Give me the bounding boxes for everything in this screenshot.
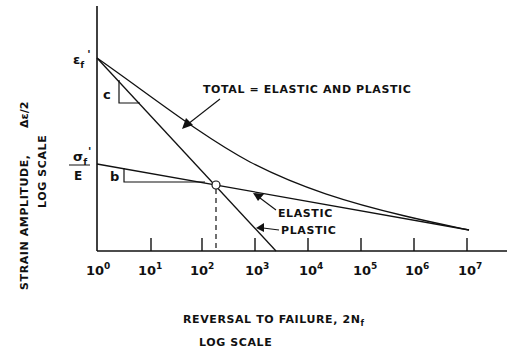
- svg-text:106: 106: [405, 261, 429, 278]
- svg-text:104: 104: [299, 261, 323, 278]
- slope-label-b: b: [110, 169, 119, 184]
- total-label: TOTAL = ELASTIC AND PLASTIC: [203, 83, 411, 96]
- svg-text:105: 105: [353, 261, 377, 278]
- strength-coefficient-numerator: σf': [73, 145, 91, 167]
- total-arrow: [188, 99, 220, 124]
- svg-text:LOG SCALE: LOG SCALE: [36, 135, 49, 208]
- slope-triangle-c: [119, 80, 140, 103]
- transition-point-marker: [212, 181, 220, 189]
- elastic-label: ELASTIC: [278, 207, 333, 220]
- elastic-line: [97, 164, 469, 230]
- svg-text:102: 102: [190, 261, 214, 278]
- svg-text:107: 107: [458, 261, 482, 278]
- svg-text:STRAIN AMPLITUDE,: STRAIN AMPLITUDE,: [18, 154, 31, 290]
- ductility-coefficient-label: εf': [73, 48, 91, 70]
- svg-text:101: 101: [138, 261, 162, 278]
- slope-label-c: c: [103, 87, 111, 102]
- y-axis-scale-label: LOG SCALE: [36, 135, 49, 208]
- slope-triangle-b: [124, 168, 205, 182]
- plastic-label: PLASTIC: [281, 224, 336, 237]
- svg-text:Δε/2: Δε/2: [18, 102, 31, 128]
- plastic-arrow: [263, 228, 279, 230]
- x-axis-scale-label: LOG SCALE: [199, 336, 272, 349]
- y-axis-title: STRAIN AMPLITUDE, Δε/2: [18, 102, 31, 290]
- x-tick-labels: 100 101 102 103 104 105 106 107: [86, 261, 482, 278]
- strength-coefficient-denominator: E: [74, 169, 82, 183]
- x-axis-title: REVERSAL TO FAILURE, 2Nf: [183, 313, 365, 328]
- svg-text:103: 103: [245, 261, 269, 278]
- elastic-arrow: [260, 198, 276, 210]
- x-ticks: [151, 238, 467, 251]
- svg-text:100: 100: [86, 261, 110, 278]
- strain-life-chart: 100 101 102 103 104 105 106 107 c b TOTA…: [0, 0, 521, 361]
